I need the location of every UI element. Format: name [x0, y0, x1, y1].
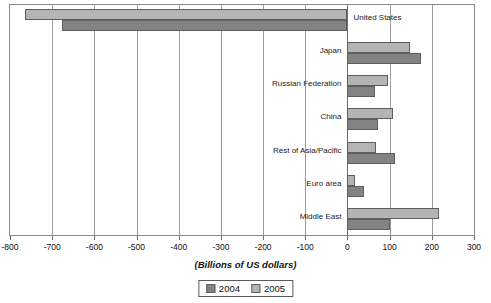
x-tick-label: -100 [297, 242, 314, 253]
x-tick--800 [10, 236, 11, 240]
current-account-balance-bar-chart: United StatesJapanRussian FederationChin… [0, 0, 491, 303]
x-tick--100 [305, 236, 306, 240]
x-tick-label: 200 [425, 242, 439, 253]
x-tick-label: 0 [345, 242, 350, 253]
x-tick-label: -700 [44, 242, 61, 253]
bar-2004-russian-federation [347, 86, 374, 97]
bar-2005-rest-of-asia-pacific [347, 142, 376, 153]
bar-row: Japan [10, 38, 474, 71]
bar-row: United States [10, 5, 474, 38]
bar-2004-rest-of-asia-pacific [347, 153, 395, 164]
category-label: Japan [320, 45, 342, 57]
x-tick-label: -400 [170, 242, 187, 253]
legend-swatch-2005-icon [251, 284, 260, 293]
x-tick-200 [432, 236, 433, 240]
bar-row: Middle East [10, 204, 474, 237]
bar-2005-united-states [25, 9, 348, 20]
category-label: United States [353, 12, 401, 24]
category-label: Rest of Asia/Pacific [273, 145, 341, 157]
x-tick--600 [94, 236, 95, 240]
legend-item-2004: 2004 [206, 283, 240, 294]
bar-2005-china [347, 108, 392, 119]
legend-swatch-2004-icon [206, 284, 215, 293]
x-axis-title: (Billions of US dollars) [0, 259, 491, 270]
bar-rows: United StatesJapanRussian FederationChin… [10, 5, 474, 235]
x-tick--300 [221, 236, 222, 240]
x-tick-0 [347, 236, 348, 240]
x-tick-label: -300 [212, 242, 229, 253]
bar-2004-middle-east [347, 219, 389, 230]
x-tick-label: -600 [86, 242, 103, 253]
x-tick-label: -800 [1, 242, 18, 253]
x-tick--200 [263, 236, 264, 240]
bar-2005-euro-area [347, 175, 355, 186]
category-label: Euro area [306, 178, 341, 190]
bar-row: Euro area [10, 171, 474, 204]
x-tick-label: 100 [383, 242, 397, 253]
x-tick--700 [52, 236, 53, 240]
category-label: Russian Federation [272, 78, 341, 90]
legend-label-2004: 2004 [219, 283, 240, 294]
plot-area: United StatesJapanRussian FederationChin… [9, 4, 475, 236]
legend-label-2005: 2005 [264, 283, 285, 294]
x-tick-100 [390, 236, 391, 240]
bar-2004-united-states [62, 20, 348, 31]
bar-row: Russian Federation [10, 71, 474, 104]
bar-2004-euro-area [347, 186, 364, 197]
legend-item-2005: 2005 [251, 283, 285, 294]
category-label: Middle East [300, 211, 342, 223]
x-tick-300 [474, 236, 475, 240]
x-tick-label: -200 [255, 242, 272, 253]
x-tick--500 [137, 236, 138, 240]
bar-2005-middle-east [347, 208, 438, 219]
x-tick--400 [179, 236, 180, 240]
x-tick-label: -500 [128, 242, 145, 253]
bar-row: China [10, 104, 474, 137]
bar-2005-russian-federation [347, 75, 387, 86]
bar-row: Rest of Asia/Pacific [10, 138, 474, 171]
bar-2004-japan [347, 53, 420, 64]
chart-legend: 2004 2005 [198, 280, 293, 297]
category-label: China [321, 111, 342, 123]
bar-2004-china [347, 119, 377, 130]
x-tick-label: 300 [467, 242, 481, 253]
bar-2005-japan [347, 42, 410, 53]
